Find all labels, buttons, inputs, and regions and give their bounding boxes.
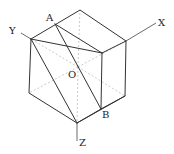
x-axis-line — [126, 23, 156, 41]
edge-b-to-front-bottom — [77, 109, 101, 123]
labels: A B O X Y Z — [8, 12, 166, 148]
visible-edges — [29, 10, 126, 123]
edge-b-to-right-bottom — [101, 96, 125, 109]
y-axis-line — [21, 33, 31, 39]
label-x: X — [158, 17, 166, 28]
label-b: B — [102, 109, 109, 120]
label-y: Y — [8, 25, 16, 36]
edge-front-vertical — [101, 53, 102, 109]
hidden-axis-z — [77, 67, 78, 123]
label-a: A — [45, 12, 54, 23]
cube-diagram: A B O X Y Z — [0, 0, 174, 154]
edge-front-top-to-right-top — [102, 41, 126, 53]
label-z: Z — [79, 137, 86, 148]
label-o: O — [68, 69, 76, 80]
